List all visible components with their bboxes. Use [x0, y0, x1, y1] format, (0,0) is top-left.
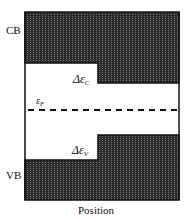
subscript-f: F — [40, 100, 44, 108]
delta-epsilon: Δε — [72, 143, 84, 157]
conduction-band-region — [25, 12, 179, 83]
cb-label: CB — [6, 25, 21, 36]
fermi-level-label: εF — [36, 95, 44, 108]
subscript-v: V — [84, 150, 88, 158]
conduction-offset-label: ΔεC — [73, 74, 89, 87]
subscript-c: C — [85, 79, 90, 87]
vb-label: VB — [6, 170, 21, 181]
valence-band-region — [25, 135, 179, 200]
delta-epsilon: Δε — [73, 72, 85, 86]
valence-offset-label: ΔεV — [72, 145, 88, 158]
x-axis-label: Position — [78, 205, 114, 216]
band-diagram-graphic — [0, 0, 188, 219]
